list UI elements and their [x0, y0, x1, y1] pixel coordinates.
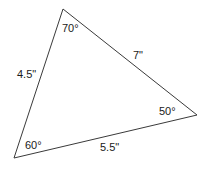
- triangle-figure: 70° 50° 60° 4.5" 7" 5.5": [0, 0, 209, 169]
- triangle-outline: [14, 9, 197, 158]
- side-label-upper-right: 7": [133, 50, 143, 61]
- side-label-left: 4.5": [17, 69, 36, 80]
- angle-label-top: 70°: [62, 23, 79, 34]
- angle-label-right: 50°: [159, 106, 176, 117]
- side-label-bottom: 5.5": [100, 142, 119, 153]
- angle-label-bottom-left: 60°: [25, 140, 42, 151]
